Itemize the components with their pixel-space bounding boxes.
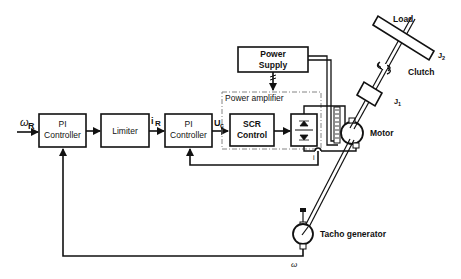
- svg-text:i: i: [313, 154, 315, 161]
- signal-control-voltage: U c: [214, 118, 224, 129]
- svg-text:Supply: Supply: [259, 60, 288, 70]
- svg-text:PI: PI: [184, 119, 192, 129]
- pi-controller-speed: PI Controller: [39, 114, 86, 147]
- block-diagram: ω R PI Controller Limiter i R PI Control…: [0, 0, 461, 279]
- field-winding-icon: [334, 107, 340, 143]
- tacho-shaft: [304, 139, 354, 229]
- thyristor-bridge-icon: [291, 114, 317, 146]
- speed-feedback-path: ω: [63, 149, 303, 269]
- svg-text:Power amplifier: Power amplifier: [225, 93, 284, 103]
- power-supply-block: Power Supply: [238, 47, 308, 72]
- load-inertia-icon: Load J 2: [373, 14, 445, 61]
- svg-text:2: 2: [442, 55, 445, 61]
- svg-text:1: 1: [398, 101, 401, 107]
- scr-control-block: SCR Control: [230, 114, 274, 146]
- input-omega-ref: ω R: [17, 116, 38, 132]
- svg-text:Load: Load: [393, 14, 413, 24]
- svg-text:Controller: Controller: [170, 130, 207, 140]
- svg-text:Controller: Controller: [44, 130, 81, 140]
- svg-text:Motor: Motor: [370, 128, 394, 138]
- current-feedback-path: i: [190, 149, 318, 165]
- motor-icon: Motor: [341, 118, 394, 148]
- svg-text:Tacho generator: Tacho generator: [320, 229, 387, 239]
- signal-current-ref: i R: [151, 116, 161, 128]
- svg-text:ω: ω: [291, 260, 297, 269]
- svg-text:Control: Control: [237, 130, 267, 140]
- clutch-icon: Clutch: [378, 62, 435, 77]
- svg-text:SCR: SCR: [243, 119, 261, 129]
- svg-text:i: i: [151, 116, 154, 126]
- svg-text:R: R: [155, 119, 161, 128]
- svg-text:R: R: [28, 121, 35, 131]
- pi-controller-current: PI Controller: [165, 114, 212, 147]
- svg-text:Power: Power: [260, 49, 286, 59]
- limiter-block: Limiter: [101, 114, 149, 147]
- svg-text:PI: PI: [58, 119, 66, 129]
- tacho-generator-icon: Tacho generator: [293, 208, 387, 249]
- svg-text:Clutch: Clutch: [408, 67, 434, 77]
- svg-text:Limiter: Limiter: [112, 126, 138, 136]
